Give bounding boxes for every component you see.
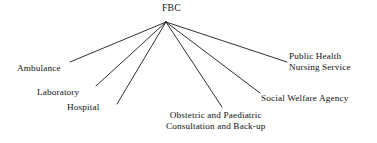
node-label-ambulance-line-1: Ambulance bbox=[17, 63, 61, 74]
spoke-line-ambulance bbox=[70, 22, 166, 62]
node-label-laboratory-line-1: Laboratory bbox=[37, 87, 79, 98]
node-label-hospital-line-1: Hospital bbox=[67, 102, 99, 113]
spoke-line-laboratory bbox=[96, 22, 166, 86]
node-label-public-health-nursing-service-line-2: Nursing Service bbox=[289, 62, 351, 73]
node-label-public-health-nursing-service: Public HealthNursing Service bbox=[289, 51, 351, 72]
spoke-line-hospital bbox=[117, 22, 166, 104]
fbc-linkage-diagram: FBC AmbulanceLaboratoryHospitalObstetric… bbox=[0, 0, 377, 143]
node-label-obstetric-paediatric-line-1: Obstetric and Paediatric bbox=[166, 110, 266, 121]
node-label-social-welfare-agency-line-1: Social Welfare Agency bbox=[261, 93, 348, 104]
node-label-obstetric-paediatric: Obstetric and PaediatricConsultation and… bbox=[166, 110, 266, 131]
node-label-social-welfare-agency: Social Welfare Agency bbox=[261, 93, 348, 104]
node-label-obstetric-paediatric-line-2: Consultation and Back-up bbox=[166, 121, 266, 132]
node-label-ambulance: Ambulance bbox=[17, 63, 61, 74]
node-label-hospital: Hospital bbox=[67, 102, 99, 113]
node-label-public-health-nursing-service-line-1: Public Health bbox=[289, 51, 351, 62]
spoke-line-social-welfare-agency bbox=[166, 22, 260, 93]
spoke-lines bbox=[70, 22, 287, 107]
hub-node-label: FBC bbox=[162, 2, 181, 13]
node-label-laboratory: Laboratory bbox=[37, 87, 79, 98]
spoke-line-obstetric-paediatric bbox=[166, 22, 222, 107]
spoke-line-public-health-nursing-service bbox=[166, 22, 287, 62]
